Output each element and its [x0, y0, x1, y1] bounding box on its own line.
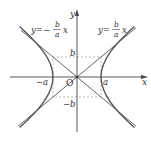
tick-neg-b: −b — [63, 99, 76, 109]
eq-pos-num: b — [114, 20, 119, 29]
eq-pos-var: x — [122, 25, 127, 35]
origin-point — [76, 76, 79, 79]
eq-pos-den: a — [114, 30, 118, 39]
asymptote-negative-equation: y=− b a x — [30, 20, 68, 39]
eq-pos-lhs: y= — [97, 25, 110, 35]
eq-neg-lhs: y=− — [30, 25, 50, 35]
eq-neg-num: b — [55, 20, 60, 29]
hyperbola-svg: y x O −a a b −b y=− b a x y= b a x — [0, 0, 151, 141]
x-axis-label: x — [142, 77, 147, 87]
y-axis-label: y — [69, 9, 76, 19]
eq-neg-den: a — [55, 30, 59, 39]
eq-neg-var: x — [63, 25, 68, 35]
origin-label: O — [66, 78, 73, 88]
tick-pos-b: b — [70, 48, 75, 58]
tick-pos-a: a — [103, 77, 108, 87]
hyperbola-diagram: y x O −a a b −b y=− b a x y= b a x — [0, 0, 151, 141]
y-axis-arrow-icon — [75, 9, 79, 16]
asymptote-positive-equation: y= b a x — [97, 20, 127, 39]
tick-neg-a: −a — [36, 77, 48, 87]
